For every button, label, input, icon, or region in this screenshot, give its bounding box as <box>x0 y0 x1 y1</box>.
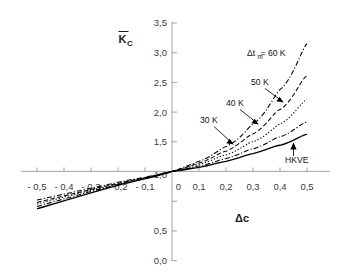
axis-titles: K C Δc <box>119 32 250 225</box>
x-tick-label: 0,2 <box>219 181 232 192</box>
annotation-hkve: HKVE <box>285 143 309 165</box>
x-tick-label: 0,3 <box>246 181 259 192</box>
x-tick-label: - 0,1 <box>135 181 154 192</box>
y-tick-label: 2,5 <box>154 77 167 88</box>
x-tick-label: 0,1 <box>192 181 205 192</box>
annotation-50k-label: 50 K <box>251 77 269 87</box>
y-axis-title-base: K <box>119 33 127 45</box>
y-tick-label: 1,5 <box>154 136 167 147</box>
annotation-30k: 30 K <box>200 115 234 145</box>
y-tick-label: 0,0 <box>154 255 167 266</box>
y-tick-labels: 0,0 0,5 1,0 1,5 2,0 2,5 3,0 3,5 <box>154 17 167 266</box>
annotation-hkve-label: HKVE <box>285 155 309 165</box>
y-tick-label: 3,5 <box>154 17 167 28</box>
annotation-30k-label: 30 K <box>200 115 218 125</box>
x-tick-label: - 0,5 <box>27 181 46 192</box>
annotation-40k-label: 40 K <box>226 98 244 108</box>
chart-figure: - 0,5 - 0,4 - 0,3 - 0,2 - 0,1 0 0,1 0,2 … <box>0 0 337 277</box>
annotation-hkve-arrowhead <box>290 143 296 150</box>
y-tick-label: 0,5 <box>154 225 167 236</box>
annotation-60k-prefix: Δt <box>247 48 256 58</box>
annotation-40k: 40 K <box>226 98 259 124</box>
x-tick-label: 0,5 <box>300 181 313 192</box>
x-tick-label: 0,4 <box>273 181 286 192</box>
annotation-50k: 50 K <box>251 77 284 102</box>
annotation-30k-arrowhead <box>226 139 234 145</box>
annotation-60k-suffix: = 60 K <box>261 48 286 58</box>
y-axis-title: K C <box>119 32 134 49</box>
y-tickmarks <box>172 23 177 261</box>
x-tick-label: - 0,4 <box>54 181 73 192</box>
x-axis-title: Δc <box>235 212 249 224</box>
y-axis-title-subscript: C <box>127 39 133 48</box>
chart-canvas: - 0,5 - 0,4 - 0,3 - 0,2 - 0,1 0 0,1 0,2 … <box>0 0 337 277</box>
annotations-group: Δt m = 60 K 50 K 40 K 30 K <box>200 48 309 165</box>
y-tick-label: 3,0 <box>154 47 167 58</box>
y-tick-label: 2,0 <box>154 107 167 118</box>
annotation-60k: Δt m = 60 K <box>247 48 286 60</box>
x-tick-labels: - 0,5 - 0,4 - 0,3 - 0,2 - 0,1 0 0,1 0,2 … <box>27 181 313 192</box>
x-tick-label: 0 <box>176 181 181 192</box>
